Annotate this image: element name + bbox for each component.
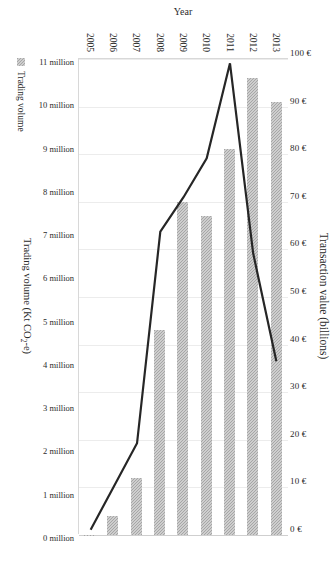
trading-volume-tick: 6 million <box>43 274 74 283</box>
trading-volume-tick: 4 million <box>43 361 74 370</box>
trading-volume-tick: 0 million <box>43 534 74 543</box>
year-tick-2005: 2005 <box>85 33 95 52</box>
transaction-value-tick: 20 € <box>290 430 307 439</box>
trading-volume-tick: 8 million <box>43 188 74 197</box>
transaction-value-tick: 100 € <box>290 49 311 58</box>
transaction-value-tick: 90 € <box>290 97 307 106</box>
transaction-value-axis-title: Transaction value (billions) <box>318 58 330 534</box>
trading-volume-tick: 9 million <box>43 145 74 154</box>
transaction-value-tick: 30 € <box>290 382 307 391</box>
year-tick-2008: 2008 <box>155 33 165 52</box>
year-tick-2013: 2013 <box>271 33 281 52</box>
year-tick-2012: 2012 <box>248 33 258 52</box>
trading-volume-axis-title-tail: -e) <box>22 342 33 354</box>
trading-volume-axis: 11 million10 million9 million8 million7 … <box>17 58 77 534</box>
trading-volume-tick: 3 million <box>43 404 74 413</box>
year-tick-2007: 2007 <box>131 33 141 52</box>
rotated-figure-wrapper: Transaction value (billions) 100 €90 €80… <box>0 0 332 579</box>
trading-volume-tick: 5 million <box>43 318 74 327</box>
trading-volume-line <box>91 63 277 529</box>
transaction-value-axis: Transaction value (billions) 100 €90 €80… <box>288 58 332 534</box>
legend-swatch-icon <box>17 58 25 66</box>
bar-2005 <box>84 535 95 536</box>
trading-volume-tick: 7 million <box>43 231 74 240</box>
year-tick-2010: 2010 <box>201 33 211 52</box>
trading-volume-axis-title-head: Trading volume (Kt CO <box>22 238 33 339</box>
transaction-value-tick: 10 € <box>290 477 307 486</box>
year-tick-2009: 2009 <box>178 33 188 52</box>
year-tick-2006: 2006 <box>108 33 118 52</box>
year-axis-title: Year <box>174 6 192 17</box>
trading-volume-line-layer <box>79 59 288 534</box>
trading-volume-tick: 1 million <box>43 491 74 500</box>
trading-volume-tick: 10 million <box>39 101 74 110</box>
chart-page: Transaction value (billions) 100 €90 €80… <box>0 0 332 579</box>
transaction-value-tick: 80 € <box>290 144 307 153</box>
transaction-value-tick: 0 € <box>290 525 302 534</box>
transaction-value-tick: 40 € <box>290 335 307 344</box>
trading-volume-tick: 2 million <box>43 447 74 456</box>
transaction-value-tick: 70 € <box>290 192 307 201</box>
chart-figure: Transaction value (billions) 100 €90 €80… <box>0 0 332 579</box>
gridline <box>79 535 288 536</box>
legend-label-trading-volume: Trading volume <box>16 71 26 132</box>
year-axis: 201320122011201020092008200720062005 Yea… <box>78 0 288 58</box>
chart-legend: Trading volume <box>16 58 26 132</box>
plot-area <box>78 58 288 534</box>
trading-volume-tick: 11 million <box>39 58 74 67</box>
transaction-value-tick: 50 € <box>290 287 307 296</box>
year-tick-2011: 2011 <box>225 33 235 52</box>
transaction-value-tick: 60 € <box>290 239 307 248</box>
